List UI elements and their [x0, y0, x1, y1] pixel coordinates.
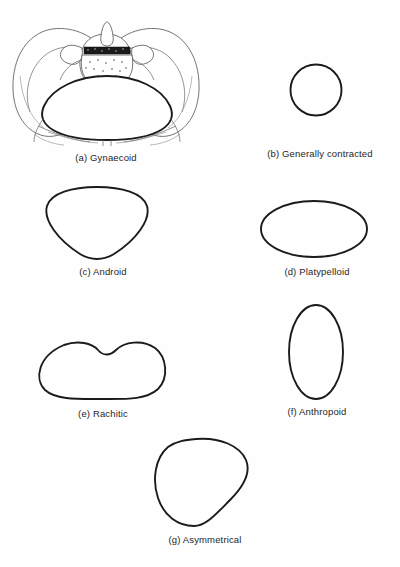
- brim-asymmetrical-icon: [152, 436, 256, 530]
- figure-sheet: (a) Gynaecoid (b) Generally contracted (…: [0, 0, 400, 567]
- panel-caption-generally-contracted: (b) Generally contracted: [250, 148, 390, 159]
- panel-caption-rachitic: (e) Rachitic: [30, 408, 176, 419]
- brim-platypelloid-icon: [258, 198, 370, 260]
- panel-caption-platypelloid: (d) Platypelloid: [252, 266, 382, 277]
- panel-rachitic: (e) Rachitic: [30, 338, 176, 424]
- panel-android: (c) Android: [38, 184, 168, 280]
- panel-caption-android: (c) Android: [38, 266, 168, 277]
- panel-platypelloid: (d) Platypelloid: [252, 198, 382, 280]
- panel-caption-anthropoid: (f) Anthropoid: [262, 406, 372, 417]
- panel-generally-contracted: (b) Generally contracted: [250, 60, 390, 164]
- panel-anthropoid: (f) Anthropoid: [262, 302, 372, 424]
- brim-android-icon: [42, 184, 152, 262]
- panel-asymmetrical: (g) Asymmetrical: [140, 436, 270, 552]
- pelvis-gynaecoid-icon: [8, 14, 204, 146]
- brim-rachitic-icon: [34, 338, 170, 402]
- panel-gynaecoid: (a) Gynaecoid: [8, 14, 204, 164]
- panel-caption-gynaecoid: (a) Gynaecoid: [8, 152, 204, 163]
- brim-circle-icon: [286, 60, 346, 120]
- brim-anthropoid-icon: [285, 302, 347, 402]
- panel-caption-asymmetrical: (g) Asymmetrical: [140, 534, 270, 545]
